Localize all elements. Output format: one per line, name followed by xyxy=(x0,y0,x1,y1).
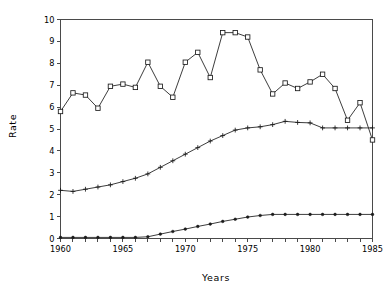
data-point-marker xyxy=(246,216,249,219)
data-point-marker xyxy=(159,233,162,236)
y-tick-label: 3 xyxy=(49,168,54,178)
data-point-marker xyxy=(145,171,150,176)
data-point-marker xyxy=(283,81,287,85)
data-point-marker xyxy=(72,236,75,239)
data-point-marker xyxy=(71,91,75,95)
y-tick-label: 9 xyxy=(49,36,54,46)
data-point-marker xyxy=(295,120,300,125)
data-point-marker xyxy=(259,214,262,217)
series-middle-series xyxy=(58,119,375,194)
data-point-marker xyxy=(147,235,150,238)
data-point-marker xyxy=(221,30,225,34)
data-point-marker xyxy=(108,182,113,187)
series-line-upper-series xyxy=(61,33,373,140)
data-point-marker xyxy=(121,82,125,86)
series-upper-series xyxy=(58,30,374,142)
data-point-marker xyxy=(59,236,62,239)
data-point-marker xyxy=(296,213,299,216)
data-point-marker xyxy=(158,165,163,170)
x-axis-title: Years xyxy=(201,272,230,283)
data-point-marker xyxy=(220,133,225,138)
plot-frame xyxy=(61,20,373,239)
data-point-marker xyxy=(358,101,362,105)
data-point-marker xyxy=(133,85,137,89)
data-point-marker xyxy=(158,84,162,88)
chart-figure: 012345678910 196019651970197519801985 Ra… xyxy=(0,0,391,291)
data-point-marker xyxy=(320,126,325,131)
y-tick-label: 0 xyxy=(49,234,54,244)
data-point-marker xyxy=(309,213,312,216)
data-point-marker xyxy=(284,213,287,216)
data-point-marker xyxy=(183,60,187,64)
data-point-marker xyxy=(283,119,288,124)
data-point-marker xyxy=(346,213,349,216)
y-tick-label: 2 xyxy=(49,190,54,200)
data-point-marker xyxy=(83,187,88,192)
y-tick-label: 8 xyxy=(49,58,54,68)
data-point-marker xyxy=(270,122,275,127)
data-point-marker xyxy=(308,80,312,84)
x-tick-label: 1970 xyxy=(175,244,196,254)
y-tick-label: 6 xyxy=(49,102,54,112)
data-point-marker xyxy=(209,223,212,226)
data-point-marker xyxy=(321,213,324,216)
series-line-middle-series xyxy=(61,121,373,191)
data-point-marker xyxy=(171,230,174,233)
data-point-marker xyxy=(320,72,324,76)
data-point-marker xyxy=(170,158,175,163)
data-point-marker xyxy=(84,236,87,239)
data-point-marker xyxy=(195,145,200,150)
y-tick-label: 1 xyxy=(49,212,54,222)
data-point-marker xyxy=(71,189,76,194)
data-point-marker xyxy=(258,124,263,129)
data-point-marker xyxy=(208,75,212,79)
data-point-marker xyxy=(83,93,87,97)
data-point-marker xyxy=(183,152,188,157)
data-point-marker xyxy=(133,176,138,181)
series-line-lower-series xyxy=(61,214,373,237)
x-tick-label: 1980 xyxy=(300,244,321,254)
data-point-marker xyxy=(246,35,250,39)
data-point-marker xyxy=(122,236,125,239)
data-point-marker xyxy=(196,50,200,54)
data-point-marker xyxy=(370,126,375,131)
data-point-marker xyxy=(245,126,250,131)
data-point-marker xyxy=(208,139,213,144)
data-point-marker xyxy=(96,185,101,190)
data-point-marker xyxy=(184,228,187,231)
data-point-marker xyxy=(270,92,274,96)
data-point-marker xyxy=(258,68,262,72)
data-point-marker xyxy=(345,126,350,131)
data-point-marker xyxy=(171,95,175,99)
data-point-marker xyxy=(58,188,63,193)
series-lower-series xyxy=(59,213,374,239)
x-tick-label: 1975 xyxy=(237,244,258,254)
data-point-marker xyxy=(295,86,299,90)
data-point-marker xyxy=(121,179,126,184)
y-tick-label: 7 xyxy=(49,80,54,90)
y-tick-label: 4 xyxy=(49,146,54,156)
data-point-marker xyxy=(333,126,338,131)
data-point-marker xyxy=(371,213,374,216)
data-point-marker xyxy=(233,128,238,133)
data-point-marker xyxy=(345,118,349,122)
x-tick-label: 1960 xyxy=(50,244,71,254)
data-point-marker xyxy=(109,236,112,239)
data-point-marker xyxy=(358,126,363,131)
series-layer xyxy=(58,30,375,238)
data-point-marker xyxy=(146,60,150,64)
x-tick-label: 1985 xyxy=(362,244,383,254)
data-point-marker xyxy=(370,138,374,142)
data-point-marker xyxy=(96,106,100,110)
line-chart: 012345678910 196019651970197519801985 Ra… xyxy=(0,0,391,291)
data-point-marker xyxy=(271,213,274,216)
y-tick-label: 10 xyxy=(44,15,54,25)
data-point-marker xyxy=(97,236,100,239)
data-point-marker xyxy=(359,213,362,216)
y-tick-label: 5 xyxy=(49,124,54,134)
data-point-marker xyxy=(233,30,237,34)
x-axis-tick-labels: 196019651970197519801985 xyxy=(50,244,383,254)
data-point-marker xyxy=(333,86,337,90)
data-point-marker xyxy=(221,220,224,223)
x-tick-label: 1965 xyxy=(112,244,133,254)
